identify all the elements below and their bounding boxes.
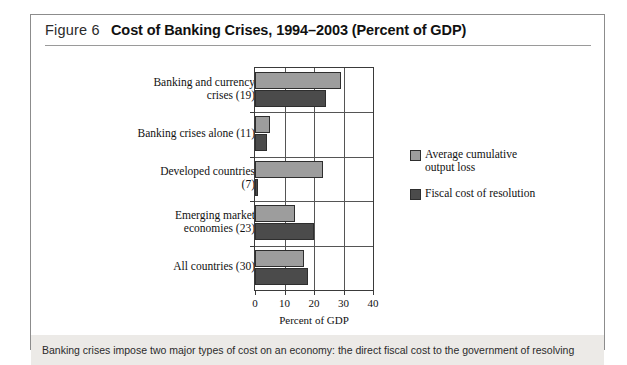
category-separator [255, 112, 373, 113]
x-tick-30 [344, 290, 345, 295]
category-label-1: Banking crises alone (11) [75, 127, 255, 140]
x-tick-10 [285, 290, 286, 295]
legend-item-1: Fiscal cost of resolution [410, 187, 585, 200]
category-label-3: Emerging marketeconomies (23) [75, 209, 255, 235]
bar-4-1 [255, 268, 308, 285]
category-label-0: Banking and currencycrises (19) [75, 76, 255, 102]
x-tick-label-40: 40 [368, 297, 379, 309]
bar-0-1 [255, 90, 326, 107]
x-axis-title: Percent of GDP [279, 314, 349, 326]
gridline-30 [344, 68, 345, 290]
category-label-line: Emerging market [75, 209, 255, 222]
bar-0-0 [255, 72, 341, 89]
figure-container: Figure 6 Cost of Banking Crises, 1994–20… [30, 14, 605, 350]
category-label-line: All countries (30) [75, 260, 255, 273]
bar-2-1 [255, 179, 258, 196]
category-label-4: All countries (30) [75, 260, 255, 273]
footnote-text: Banking crises impose two major types of… [42, 344, 593, 357]
y-axis-tick [250, 246, 255, 247]
figure-number: Figure 6 [45, 22, 100, 38]
legend-label-line: output loss [425, 161, 585, 174]
category-label-line: crises (19) [75, 89, 255, 102]
chart-plot-area: 010203040 Percent of GDP [254, 67, 374, 291]
y-axis-tick [250, 112, 255, 113]
category-label-line: economies (23) [75, 222, 255, 235]
category-separator [255, 201, 373, 202]
x-tick-40 [373, 290, 374, 295]
category-label-line: Banking and currency [75, 76, 255, 89]
bar-3-0 [255, 205, 295, 222]
legend-label-line: Fiscal cost of resolution [425, 187, 585, 200]
chart-legend: Average cumulativeoutput lossFiscal cost… [410, 148, 585, 213]
legend-item-0: Average cumulativeoutput loss [410, 148, 585, 174]
category-label-line: Banking crises alone (11) [75, 127, 255, 140]
x-tick-label-20: 20 [309, 297, 320, 309]
x-tick-0 [255, 290, 256, 295]
x-tick-20 [314, 290, 315, 295]
bar-1-1 [255, 134, 267, 151]
bar-4-0 [255, 250, 304, 267]
bar-3-1 [255, 223, 314, 240]
legend-swatch-1 [410, 189, 421, 200]
category-separator [255, 157, 373, 158]
legend-swatch-0 [410, 150, 421, 161]
category-label-line: (7) [75, 178, 255, 191]
figure-header: Figure 6 Cost of Banking Crises, 1994–20… [31, 15, 604, 49]
bar-1-0 [255, 116, 270, 133]
x-tick-label-10: 10 [279, 297, 290, 309]
y-axis-tick [250, 201, 255, 202]
x-tick-label-0: 0 [252, 297, 258, 309]
figure-title: Cost of Banking Crises, 1994–2003 (Perce… [111, 22, 466, 38]
y-axis-tick [250, 157, 255, 158]
category-label-2: Developed countries(7) [75, 165, 255, 191]
category-separator [255, 246, 373, 247]
title-divider [45, 45, 591, 46]
legend-label-line: Average cumulative [425, 148, 585, 161]
bar-2-0 [255, 161, 323, 178]
x-tick-label-30: 30 [338, 297, 349, 309]
category-label-line: Developed countries [75, 165, 255, 178]
